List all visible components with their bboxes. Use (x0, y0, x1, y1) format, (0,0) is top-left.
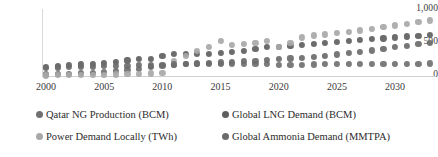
data-point (334, 51, 340, 57)
data-point (427, 60, 433, 66)
data-point (276, 61, 282, 67)
data-point (43, 72, 49, 78)
x-axis-tick-label: 2025 (327, 82, 347, 92)
data-point (241, 41, 247, 47)
data-point (159, 53, 165, 59)
data-point (311, 53, 317, 59)
y-axis-tick-label: 1,000 (402, 4, 438, 14)
y-axis-tick-label: 0 (402, 70, 438, 80)
data-point (264, 44, 270, 50)
data-point (427, 17, 433, 23)
data-point (89, 64, 95, 70)
data-point (345, 29, 351, 35)
data-point (369, 36, 375, 42)
data-point (43, 65, 49, 71)
data-point (392, 61, 398, 67)
chart-legend: Qatar NG Production (BCM) Global LNG Dem… (0, 107, 438, 157)
data-point (357, 37, 363, 43)
data-point (217, 50, 223, 56)
data-point (392, 34, 398, 40)
data-point (66, 64, 72, 70)
data-point (369, 61, 375, 67)
legend-item-qatar-ng-production[interactable]: Qatar NG Production (BCM) (36, 109, 169, 120)
legend-label: Global LNG Demand (BCM) (232, 109, 356, 120)
chart-container: 1,000 500 0 2000200520102015202020252030… (0, 0, 438, 157)
data-point (334, 30, 340, 36)
legend-label: Power Demand Locally (TWh) (46, 131, 177, 142)
data-point (299, 62, 305, 68)
data-point (322, 52, 328, 58)
data-point (55, 72, 61, 78)
data-point (171, 51, 177, 57)
data-point (357, 27, 363, 33)
data-point (345, 61, 351, 67)
x-axis-tick-label: 2030 (385, 82, 405, 92)
data-point (415, 60, 421, 66)
data-point (299, 34, 305, 40)
data-point (322, 31, 328, 37)
data-point (404, 60, 410, 66)
legend-marker-icon (222, 133, 229, 140)
data-point (334, 39, 340, 45)
legend-label: Qatar NG Production (BCM) (46, 109, 169, 120)
data-point (55, 64, 61, 70)
x-axis-tick-label: 2015 (211, 82, 231, 92)
data-point (276, 56, 282, 62)
legend-marker-icon (222, 111, 229, 118)
data-point (369, 47, 375, 53)
data-point (78, 64, 84, 70)
data-point (299, 54, 305, 60)
data-point (392, 22, 398, 28)
legend-item-global-lng-demand[interactable]: Global LNG Demand (BCM) (222, 109, 356, 120)
data-point (311, 40, 317, 46)
data-point (101, 63, 107, 69)
data-point (229, 41, 235, 47)
data-point (392, 44, 398, 50)
data-point (322, 61, 328, 67)
data-point (345, 50, 351, 56)
data-point (345, 38, 351, 44)
x-axis-tick-label: 2010 (152, 82, 172, 92)
data-point (78, 72, 84, 78)
data-point (380, 46, 386, 52)
x-axis-tick-label: 2020 (269, 82, 289, 92)
data-point (415, 19, 421, 25)
data-point (299, 41, 305, 47)
data-point (66, 72, 72, 78)
data-point (217, 38, 223, 44)
data-point (311, 32, 317, 38)
data-point (380, 35, 386, 41)
data-point (357, 49, 363, 55)
data-point (183, 53, 189, 59)
data-point (380, 61, 386, 67)
data-point (252, 46, 258, 52)
data-point (171, 61, 177, 67)
data-point (287, 62, 293, 68)
legend-item-global-ammonia-demand[interactable]: Global Ammonia Demand (MMTPA) (222, 131, 390, 142)
plot-area: 1,000 500 0 2000200520102015202020252030 (0, 0, 438, 104)
data-point (206, 50, 212, 56)
data-point (404, 21, 410, 27)
data-point (264, 38, 270, 44)
data-point (206, 43, 212, 49)
legend-item-power-demand-locally[interactable]: Power Demand Locally (TWh) (36, 131, 177, 142)
data-point (287, 55, 293, 61)
data-point (148, 56, 154, 62)
legend-marker-icon (36, 111, 43, 118)
legend-label: Global Ammonia Demand (MMTPA) (232, 131, 390, 142)
data-point (357, 61, 363, 67)
data-point (113, 63, 119, 69)
data-point (311, 61, 317, 67)
legend-marker-icon (36, 133, 43, 140)
data-point (369, 26, 375, 32)
data-point (404, 42, 410, 48)
x-axis-tick-label: 2000 (36, 82, 56, 92)
data-point (252, 40, 258, 46)
data-point (380, 24, 386, 30)
data-point (334, 61, 340, 67)
data-point (322, 40, 328, 46)
data-point (241, 48, 247, 54)
data-point (229, 49, 235, 55)
x-axis-tick-label: 2005 (94, 82, 114, 92)
